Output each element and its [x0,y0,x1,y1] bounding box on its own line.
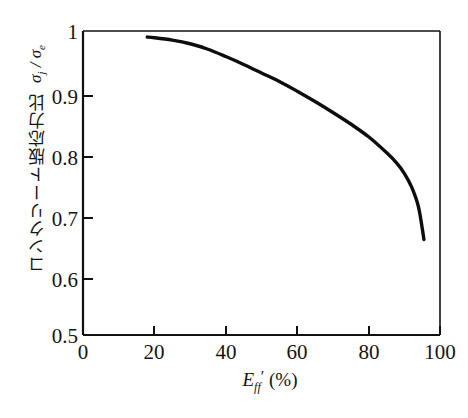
x-tick-label-60: 60 [277,340,317,365]
y-tick-label-0-9: 0.9 [20,85,78,110]
x-axis-unit: (%) [269,369,297,390]
data-curve [147,37,424,239]
x-tick-marks [154,326,440,335]
y-tick-label-1: 1 [36,20,78,45]
y-tick-label-0-7: 0.7 [20,207,78,232]
x-axis-subscript: ff [254,380,261,394]
figure-chart: 1 0.9 0.8 0.7 0.6 0.5 0 20 40 60 80 100 … [0,0,468,418]
y-tick-label-0-8: 0.8 [20,146,78,171]
x-tick-label-40: 40 [206,340,246,365]
axes-frame [83,31,440,335]
x-tick-label-0: 0 [63,340,103,365]
x-axis-prime: ′ [261,368,265,385]
x-tick-label-100: 100 [416,340,464,365]
y-tick-marks [83,96,93,279]
x-axis-label: Eff′ (%) [180,368,360,395]
y-tick-label-0-6: 0.6 [20,268,78,293]
x-tick-label-20: 20 [134,340,174,365]
x-tick-label-80: 80 [349,340,389,365]
x-axis-symbol: E [242,369,254,390]
